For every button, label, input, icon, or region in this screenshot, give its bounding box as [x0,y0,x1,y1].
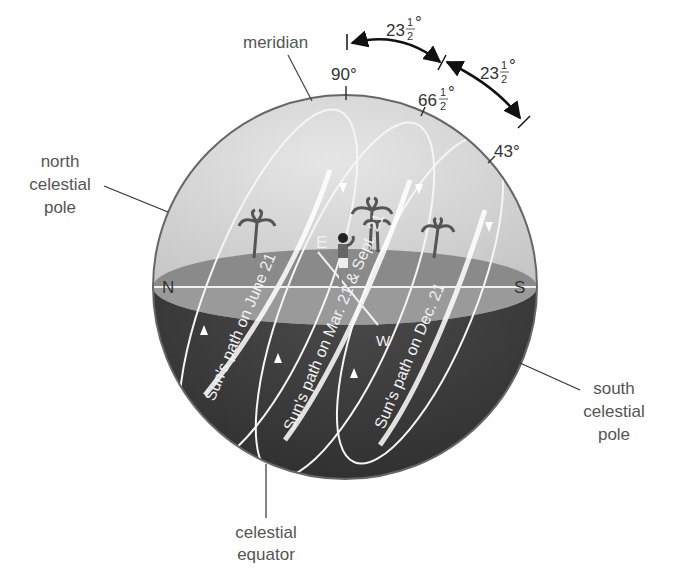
svg-text:°: ° [448,83,455,102]
svg-text:2: 2 [501,73,507,85]
svg-text:pole: pole [598,425,630,444]
altitude-43-label: 43° [494,142,520,161]
south-pole-label: south celestial pole [583,379,644,444]
svg-text:north: north [41,152,80,171]
svg-text:23: 23 [480,64,499,83]
svg-text:°: ° [509,56,516,75]
direction-south: S [514,278,525,297]
north-pole-label: north celestial pole [29,152,90,217]
north-pole-leader [104,186,168,212]
altitude-66-label: 66 1 2 ° [418,83,455,112]
direction-west: W [376,332,391,349]
celestial-sphere-diagram: N S E W Sun's path on June 21 Sun's path… [0,0,678,578]
svg-text:2: 2 [440,100,446,112]
svg-text:23: 23 [386,21,405,40]
svg-text:celestial: celestial [29,175,90,194]
altitude-90-label: 90° [331,65,357,84]
svg-text:1: 1 [407,16,413,28]
meridian-label: meridian [243,33,308,52]
direction-east: E [316,233,327,252]
direction-north: N [162,278,174,297]
south-pole-leader [520,363,580,390]
svg-text:celestial: celestial [583,402,644,421]
svg-text:66: 66 [418,91,437,110]
svg-text:south: south [593,379,635,398]
tilt-label-1: 23 1 2 ° [386,13,422,42]
svg-text:2: 2 [407,30,413,42]
celestial-equator-label: celestial equator [235,523,296,564]
svg-text:°: ° [415,13,422,32]
tilt-arc-1 [352,39,440,62]
tilt-label-2: 23 1 2 ° [480,56,516,85]
svg-text:celestial: celestial [235,523,296,542]
svg-text:1: 1 [440,86,446,98]
svg-text:pole: pole [44,198,76,217]
svg-text:equator: equator [237,545,295,564]
svg-text:1: 1 [501,59,507,71]
meridian-leader [288,55,312,101]
